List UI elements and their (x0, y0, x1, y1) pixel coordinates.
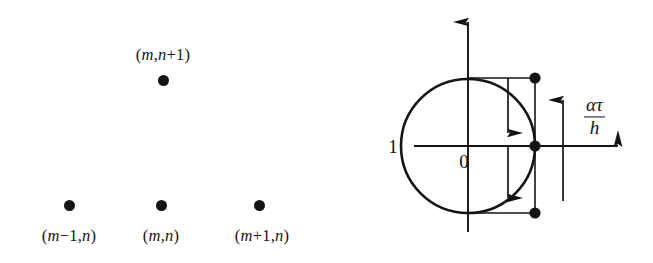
marker-axis (529, 140, 540, 151)
origin-label: 0 (459, 151, 469, 173)
fraction-numerator: ατ (584, 95, 605, 116)
alpha-tau-over-h-label: ατ h (584, 95, 605, 138)
stencil-label-m-minus-1-n: (m−1,n) (42, 226, 96, 246)
stencil-node-m-minus-1-n (64, 200, 75, 211)
marker-upper (529, 72, 540, 83)
radius-label: 1 (388, 136, 398, 158)
stencil-label-m-n: (m,n) (143, 226, 179, 246)
figure-root: (m,n+1) (m−1,n) (m,n) (m+1,n) (0, 0, 653, 263)
stencil-node-m-n-plus-1 (158, 75, 169, 86)
stencil-node-m-plus-1-n (254, 200, 265, 211)
stencil-node-m-n (156, 200, 167, 211)
stencil-panel: (m,n+1) (m−1,n) (m,n) (m+1,n) (0, 0, 330, 263)
unit-circle-panel: 1 0 ατ h (330, 0, 653, 263)
fraction-denominator: h (584, 118, 605, 139)
stencil-label-m-plus-1-n: (m+1,n) (235, 226, 289, 246)
marker-lower (529, 207, 540, 218)
stencil-label-m-n-plus-1: (m,n+1) (136, 45, 190, 65)
